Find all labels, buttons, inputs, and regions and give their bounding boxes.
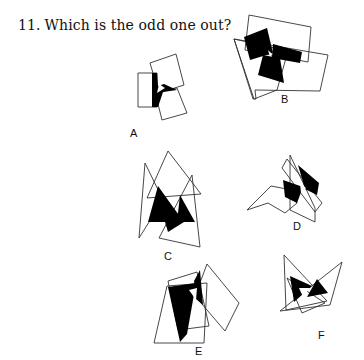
option-label-a: A [130, 127, 137, 139]
figure-f[interactable] [280, 255, 342, 313]
option-label-e: E [195, 345, 202, 357]
option-label-c: C [164, 250, 172, 262]
option-label-b: B [281, 93, 288, 105]
option-label-d: D [293, 220, 301, 232]
figure-a[interactable] [138, 54, 187, 120]
figure-d[interactable] [247, 155, 322, 222]
figure-e[interactable] [154, 264, 239, 343]
figure-b[interactable] [234, 15, 328, 99]
figure-c[interactable] [139, 151, 201, 247]
option-label-f: F [318, 329, 325, 341]
puzzle-figures [0, 0, 364, 360]
